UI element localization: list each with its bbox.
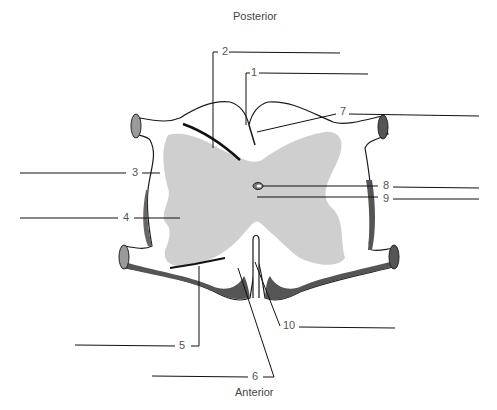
root-stump-upper-left <box>131 114 141 138</box>
label-9: 9 <box>382 193 390 204</box>
label-6: 6 <box>251 371 259 382</box>
anterior-heading: Anterior <box>235 387 274 398</box>
label-3: 3 <box>131 167 139 178</box>
label-1: 1 <box>250 67 258 78</box>
anterior-median-fissure <box>253 236 259 299</box>
label-5: 5 <box>178 340 186 351</box>
posterior-heading: Posterior <box>233 11 277 22</box>
label-7: 7 <box>339 106 347 117</box>
label-4: 4 <box>122 212 130 223</box>
root-stump-lower-right <box>389 245 399 269</box>
root-stump-lower-left <box>119 245 129 269</box>
label-2: 2 <box>221 46 229 57</box>
root-stump-upper-right <box>378 115 388 139</box>
label-8: 8 <box>382 180 390 191</box>
label-10: 10 <box>282 320 296 331</box>
spinal-cord-diagram <box>0 0 497 410</box>
